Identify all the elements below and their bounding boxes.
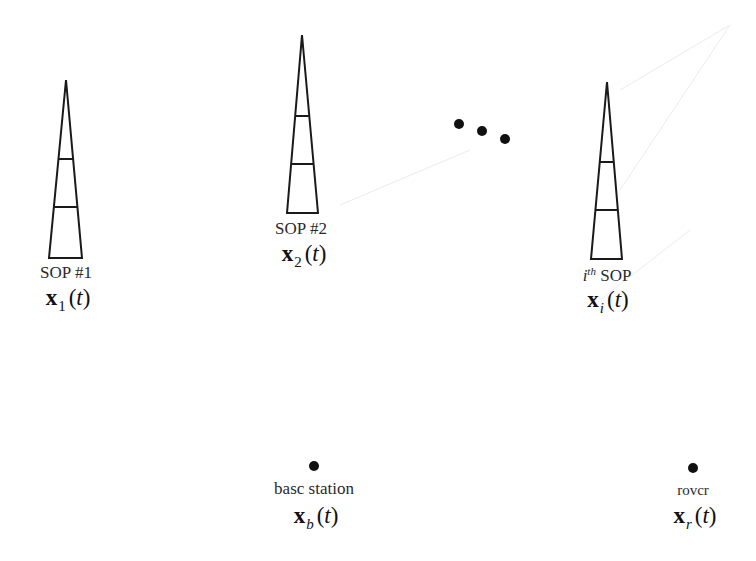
sop-2-state-label: x2(t): [282, 242, 327, 270]
paren-close: ): [331, 503, 339, 528]
state-symbol: x: [587, 287, 599, 312]
state-symbol: x: [46, 285, 58, 310]
ellipsis-dots-icon: [454, 119, 510, 144]
sop-2-name: SOP #2: [275, 220, 327, 237]
state-subscript: b: [306, 516, 314, 532]
ordinal-superscript: th: [587, 265, 596, 277]
paren-open: (: [695, 503, 703, 528]
state-symbol: x: [282, 241, 294, 266]
state-symbol: x: [294, 503, 306, 528]
base-station-name: basc station: [274, 480, 354, 497]
state-subscript: r: [686, 516, 692, 532]
sop-i-suffix: SOP: [600, 266, 631, 285]
sop-1-state-label: x1(t): [46, 286, 91, 314]
tower-icon-sop-i: [591, 82, 622, 259]
state-subscript: 2: [294, 254, 302, 270]
paren-close: ): [83, 285, 91, 310]
diagram-graphics: [0, 0, 756, 561]
state-subscript: i: [600, 300, 604, 316]
sop-i-name: ith SOP: [583, 266, 632, 284]
paren-close: ): [319, 241, 327, 266]
sop-i-state-label: xi(t): [587, 288, 628, 316]
state-symbol: x: [673, 503, 685, 528]
state-subscript: 1: [58, 298, 66, 314]
base-station-state-label: xb(t): [294, 504, 339, 532]
paren-open: (: [305, 241, 313, 266]
paren-open: (: [69, 285, 77, 310]
sop-1-name: SOP #1: [40, 264, 92, 281]
tower-icon-sop-1: [49, 80, 82, 258]
sop-diagram: SOP #1 x1(t) SOP #2 x2(t) ith SOP xi(t) …: [0, 0, 756, 561]
paren-open: (: [317, 503, 325, 528]
tower-icon-sop-2: [287, 35, 318, 213]
rover-dot-icon: [688, 463, 698, 473]
rover-state-label: xr(t): [673, 504, 716, 532]
base-station-dot-icon: [309, 461, 319, 471]
faint-background-lines: [340, 25, 730, 300]
paren-close: ): [709, 503, 717, 528]
paren-close: ): [621, 287, 629, 312]
rover-name: rovcr: [677, 483, 709, 498]
